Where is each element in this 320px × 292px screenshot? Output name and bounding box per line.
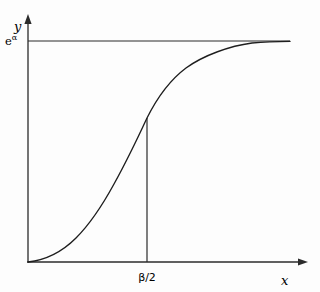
sigmoid-plot	[0, 0, 320, 292]
sigmoid-curve	[28, 41, 290, 262]
x-axis-label: x	[281, 270, 288, 289]
y-axis-tick-label: eα	[5, 30, 17, 49]
x-axis-tick-label: β/2	[127, 266, 167, 285]
figure-container: y eα β/2 x	[0, 0, 320, 292]
y-tick-base: e	[5, 34, 12, 48]
y-tick-exponent: α	[12, 33, 17, 42]
x-axis-arrow-icon	[298, 258, 308, 265]
y-axis-arrow-icon	[24, 14, 31, 24]
